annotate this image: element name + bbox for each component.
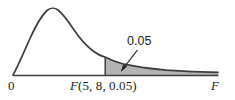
axis-label-f: F <box>211 79 219 92</box>
critical-value-symbol: F <box>70 78 78 93</box>
f-distribution-figure: 0 F(5, 8, 0.05) 0.05 F <box>0 0 235 100</box>
tail-area-label: 0.05 <box>127 35 151 48</box>
critical-value-arguments: (5, 8, 0.05) <box>78 78 137 93</box>
origin-label: 0 <box>8 79 15 92</box>
critical-value-label: F(5, 8, 0.05) <box>70 79 137 92</box>
